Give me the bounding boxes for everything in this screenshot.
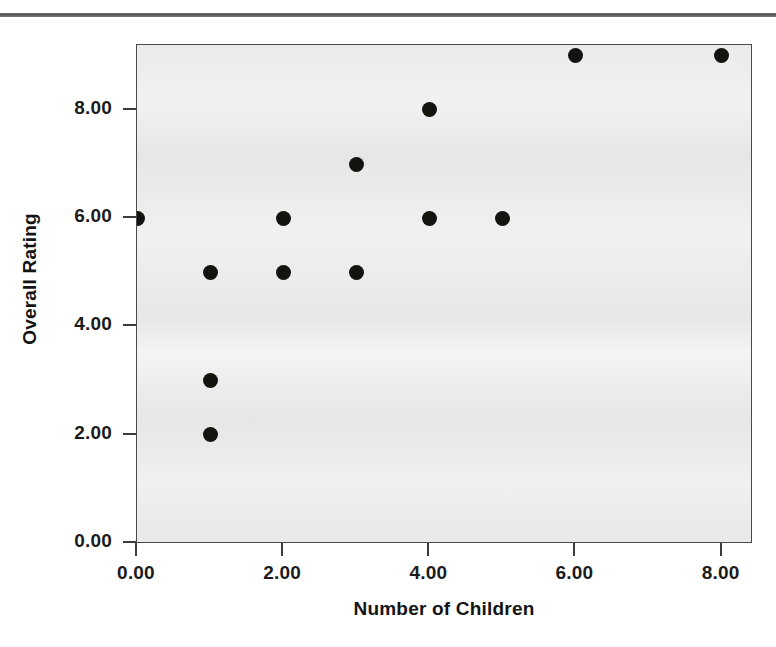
data-point [203,265,218,280]
y-tick-label: 8.00 [42,97,112,119]
scatter-plot-figure: 0.002.004.006.008.00 0.002.004.006.008.0… [0,0,776,647]
data-point [203,373,218,388]
data-point [203,427,218,442]
x-tick-label: 0.00 [91,562,181,584]
x-tick-mark [427,543,429,556]
x-axis-title: Number of Children [136,598,752,620]
data-point [349,265,364,280]
data-point [276,211,291,226]
header-rule [0,13,776,17]
x-tick-label: 8.00 [676,562,766,584]
data-point [136,211,145,226]
x-tick-mark [720,543,722,556]
plot-area [136,44,752,543]
data-point [422,211,437,226]
y-tick-mark [123,216,136,218]
data-point [349,157,364,172]
y-tick-label: 4.00 [42,313,112,335]
x-tick-mark [281,543,283,556]
y-tick-label: 2.00 [42,422,112,444]
data-point [276,265,291,280]
x-tick-label: 4.00 [383,562,473,584]
data-point [422,102,437,117]
y-tick-label: 6.00 [42,205,112,227]
y-tick-mark [123,108,136,110]
y-tick-label: 0.00 [42,530,112,552]
x-tick-mark [135,543,137,556]
x-tick-label: 2.00 [237,562,327,584]
data-point [568,48,583,63]
data-point [714,48,729,63]
data-point [495,211,510,226]
y-tick-mark [123,433,136,435]
y-tick-mark [123,324,136,326]
x-tick-mark [573,543,575,556]
x-tick-label: 6.00 [529,562,619,584]
y-axis-title: Overall Rating [19,159,41,399]
